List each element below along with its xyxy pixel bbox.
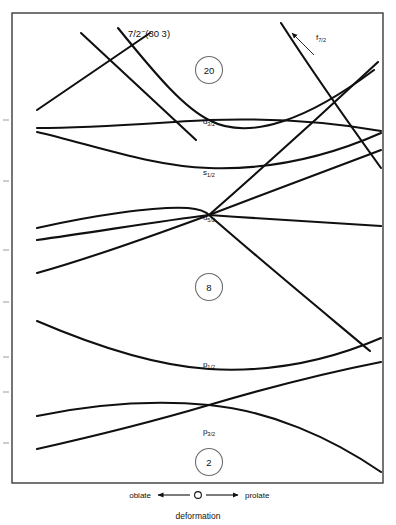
- nilsson-label-tail: (30 3): [145, 28, 170, 39]
- orbital-sub-s1-2: 1/2: [207, 172, 215, 178]
- nilsson-diagram-figure: 20 8 2 d3/2 s1/2 d5/2 p1/2 p3/2 7/2−(30 …: [0, 0, 396, 525]
- magic-number-label-8: 8: [206, 282, 211, 293]
- nilsson-label-main: 7/2: [128, 28, 141, 39]
- edge-tick-group: [3, 120, 9, 443]
- nilsson-diagram-svg: 20 8 2 d3/2 s1/2 d5/2 p1/2 p3/2 7/2−(30 …: [0, 0, 396, 525]
- axis-label-oblate: oblate: [129, 491, 151, 500]
- axis-label-prolate: prolate: [245, 491, 270, 500]
- axis-caption-deformation: deformation: [176, 511, 221, 521]
- orbital-sub-d3-2: 3/2: [207, 121, 215, 127]
- orbital-sub-p3-2: 3/2: [207, 431, 215, 437]
- magic-number-label-20: 20: [204, 65, 215, 76]
- plot-frame: [12, 13, 383, 483]
- shell-label-sub: 7/2: [318, 37, 326, 43]
- magic-number-label-2: 2: [206, 457, 211, 468]
- origin-marker: [195, 492, 202, 499]
- orbital-sub-d5-2: 5/2: [207, 217, 215, 223]
- nilsson-quantum-number-label: 7/2−(30 3): [128, 28, 170, 39]
- deformation-axis-group: oblate prolate deformation: [129, 491, 270, 521]
- orbital-sub-p1-2: 1/2: [207, 364, 215, 370]
